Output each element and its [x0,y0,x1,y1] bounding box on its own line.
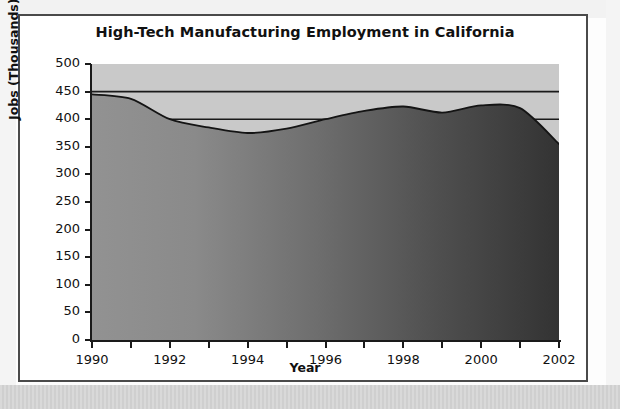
x-tick-label-1998: 1998 [377,352,429,367]
x-tick-label-1992: 1992 [144,352,196,367]
x-tick-label-1996: 1996 [300,352,352,367]
scan-edge-right [606,0,620,409]
y-tick-label-450: 450 [34,83,80,98]
x-tick-label-1994: 1994 [222,352,274,367]
chart-title: High-Tech Manufacturing Employment in Ca… [20,24,590,40]
y-tick-label-350: 350 [34,138,80,153]
y-axis-line [90,64,92,342]
y-tick-label-0: 0 [34,331,80,346]
x-tick-mark-1993 [208,342,210,348]
x-tick-mark-1998 [402,342,404,348]
chart-plot-region [92,64,559,340]
x-tick-mark-1990 [91,342,93,348]
x-tick-mark-2000 [480,342,482,348]
x-tick-mark-1997 [363,342,365,348]
x-tick-mark-1995 [286,342,288,348]
x-tick-mark-2002 [558,342,560,348]
y-tick-label-400: 400 [34,110,80,125]
y-tick-label-500: 500 [34,55,80,70]
y-tick-label-100: 100 [34,276,80,291]
page-background: High-Tech Manufacturing Employment in Ca… [0,0,620,409]
y-tick-label-250: 250 [34,193,80,208]
x-tick-mark-2001 [519,342,521,348]
x-tick-label-2002: 2002 [533,352,585,367]
scan-edge-bottom [0,385,620,409]
y-tick-label-200: 200 [34,221,80,236]
area-fill [92,94,559,340]
x-tick-mark-1994 [247,342,249,348]
x-tick-label-2000: 2000 [455,352,507,367]
chart-frame: High-Tech Manufacturing Employment in Ca… [18,14,588,382]
x-tick-mark-1992 [169,342,171,348]
x-tick-mark-1996 [325,342,327,348]
y-tick-label-150: 150 [34,248,80,263]
x-tick-label-1990: 1990 [66,352,118,367]
y-tick-label-300: 300 [34,165,80,180]
area-chart-svg [92,64,559,340]
x-tick-mark-1991 [130,342,132,348]
x-axis-line [90,340,561,342]
y-axis-title: Jobs (Thousands) [6,0,21,120]
plot-area [92,64,559,340]
x-tick-mark-1999 [441,342,443,348]
y-tick-label-50: 50 [34,303,80,318]
